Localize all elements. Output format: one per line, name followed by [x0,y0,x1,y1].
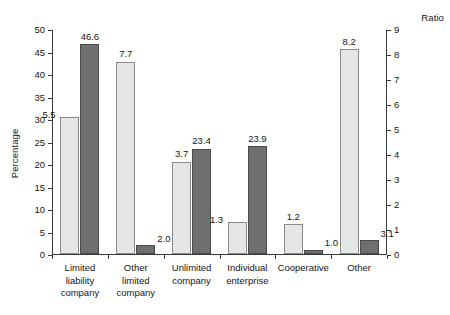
bar-percentage [136,245,155,254]
bar-value-label-ratio: 1.2 [287,212,300,222]
bar-ratio [60,117,79,255]
bar-ratio [340,49,359,254]
dual-axis-bar-chart: Percentage Ratio 05101520253035404550 01… [0,0,450,315]
y-axis-left-tick-label: 10 [34,205,45,215]
bar-value-label-percentage: 23.9 [248,134,267,144]
x-axis-category-label: Other limited company [108,262,164,300]
y-axis-left-tick-label: 0 [40,250,45,260]
y-axis-right-tick [387,80,391,81]
bar-value-label-percentage: 3.1 [381,229,394,239]
y-axis-left-tick [48,98,52,99]
y-axis-right-tick [387,55,391,56]
y-axis-left-tick [48,143,52,144]
x-axis-tick [387,255,388,259]
y-axis-right-line [386,30,387,255]
y-axis-right-tick [387,30,391,31]
x-axis-tick [164,255,165,259]
y-axis-right-tick [387,180,391,181]
x-axis-category-label: Unlimited company [164,262,220,287]
y-axis-right-tick-label: 6 [394,100,399,110]
y-axis-right-tick-label: 9 [394,25,399,35]
y-axis-left-title: Percentage [9,119,20,189]
bar-group: 5.546.6 [60,30,99,254]
y-axis-left-tick-label: 50 [34,25,45,35]
bar-group: 3.723.4 [172,30,211,254]
plot-area: 05101520253035404550 0123456789 5.546.67… [52,30,387,255]
x-axis-tick [108,255,109,259]
y-axis-right-tick-label: 4 [394,150,399,160]
x-axis-tick [220,255,221,259]
bar-value-label-percentage: 46.6 [81,32,100,42]
y-axis-left-tick-label: 25 [34,138,45,148]
y-axis-right-tick [387,155,391,156]
x-axis-tick [331,255,332,259]
y-axis-left-tick-label: 35 [34,93,45,103]
y-axis-left-line [52,30,53,255]
bar-value-label-ratio: 7.7 [119,49,132,59]
y-axis-left-tick-label: 15 [34,183,45,193]
y-axis-right-tick-label: 1 [394,225,399,235]
y-axis-right-tick-label: 5 [394,125,399,135]
y-axis-right-title: Ratio [421,12,444,23]
y-axis-right-tick [387,205,391,206]
bar-ratio [116,62,135,255]
bar-value-label-ratio: 8.2 [342,37,355,47]
bar-value-label-ratio: 3.7 [175,149,188,159]
bar-value-label-percentage: 1.0 [325,238,338,248]
bar-ratio [284,224,303,254]
y-axis-right-tick-label: 8 [394,50,399,60]
bar-value-label-percentage: 23.4 [192,136,211,146]
x-axis-category-label: Individual enterprise [220,262,276,287]
x-axis-tick [275,255,276,259]
y-axis-right-tick-label: 7 [394,75,399,85]
bar-value-label-percentage: 2.0 [157,234,170,244]
bar-ratio [172,162,191,255]
bar-value-label-ratio: 1.3 [210,215,223,225]
x-axis-category-label: Other [331,262,387,275]
bar-percentage [192,149,211,254]
y-axis-left-tick-label: 45 [34,48,45,58]
x-axis-tick [52,255,53,259]
x-axis-category-label: Limited liability company [52,262,108,300]
bar-percentage [360,240,379,254]
bar-group: 1.323.9 [228,30,267,254]
y-axis-right-tick [387,130,391,131]
bar-group: 8.23.1 [340,30,379,254]
bar-group: 7.72.0 [116,30,155,254]
bar-group: 1.21.0 [284,30,323,254]
y-axis-left-tick [48,210,52,211]
y-axis-left-tick-label: 40 [34,70,45,80]
y-axis-left-tick [48,233,52,234]
y-axis-right-tick-label: 3 [394,175,399,185]
bar-value-label-ratio: 5.5 [42,110,55,120]
bar-percentage [304,250,323,255]
bar-percentage [248,146,267,254]
y-axis-right-tick-label: 0 [394,250,399,260]
y-axis-right-tick-label: 2 [394,200,399,210]
x-axis-category-label: Cooperative [275,262,331,275]
bar-ratio [228,222,247,255]
y-axis-left-tick [48,188,52,189]
bar-percentage [80,44,99,254]
y-axis-left-tick [48,120,52,121]
y-axis-left-tick [48,30,52,31]
y-axis-left-tick-label: 20 [34,160,45,170]
y-axis-left-tick [48,53,52,54]
y-axis-left-tick-label: 5 [40,228,45,238]
y-axis-right-tick [387,105,391,106]
y-axis-left-tick [48,165,52,166]
y-axis-left-tick [48,75,52,76]
